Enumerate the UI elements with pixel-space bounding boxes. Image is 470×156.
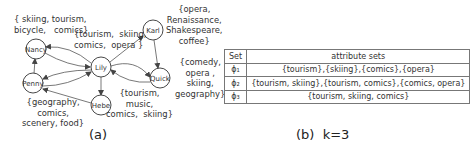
caption-a: (a) (89, 127, 107, 142)
caption-b: (b) k=3 (296, 127, 349, 142)
attr-label-quick: {comedy, opera , skiing, geography} (175, 57, 225, 99)
cell-set: ϕ₂ (225, 77, 247, 91)
cell-attribute-sets: {tourism, skiing},{tourism, comics},{com… (247, 77, 470, 91)
cell-set: ϕ₃ (225, 90, 247, 104)
table-row: ϕ₂ {tourism, skiing},{tourism, comics},{… (225, 77, 470, 91)
node-label-quick: Quick (150, 75, 171, 83)
header-set: Set (225, 50, 247, 64)
attr-label-penny: {geography, comics, scenery, food} (22, 97, 84, 129)
attr-label-karl: {opera, Renaissance, Shakespeare, coffee… (166, 4, 223, 46)
cell-attribute-sets: {tourism, skiing, comics} (247, 90, 470, 104)
edge-nancy-lily (45, 53, 90, 67)
edge-quick-lily (111, 70, 150, 82)
header-attribute-sets: attribute sets (247, 50, 470, 64)
table-row: ϕ₁ {tourism},{skiing},{comics},{opera} (225, 63, 470, 77)
social-graph: Nancy Lily Karl Quick Penny Hebe { skiin… (0, 0, 220, 156)
node-label-penny: Penny (22, 80, 43, 88)
edge-penny-lily (43, 72, 91, 86)
table-header-row: Set attribute sets (225, 50, 470, 64)
edge-penny-nancy (34, 59, 35, 74)
edge-karl-quick (154, 40, 158, 68)
attribute-sets-table: Set attribute sets ϕ₁ {tourism},{skiing}… (224, 49, 470, 104)
cell-attribute-sets: {tourism},{skiing},{comics},{opera} (247, 63, 470, 77)
node-label-nancy: Nancy (25, 46, 47, 54)
attr-label-lily: {tourism, skiing, comics, opera } (74, 29, 146, 50)
table-row: ϕ₃ {tourism, skiing, comics} (225, 90, 470, 104)
node-label-lily: Lily (95, 64, 107, 72)
edge-lily-quick (111, 64, 150, 77)
attr-label-hebe: {tourism, music, comics, skiing} (106, 88, 173, 120)
node-label-karl: Karl (146, 27, 160, 35)
cell-set: ϕ₁ (225, 63, 247, 77)
edge-lily-penny (43, 70, 91, 79)
